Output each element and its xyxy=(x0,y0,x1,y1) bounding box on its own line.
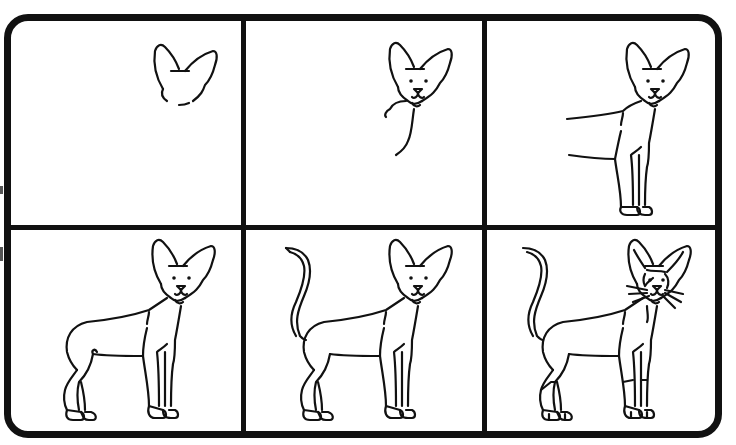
panel-step-2: Step 2 xyxy=(246,21,482,225)
panel-step-3: Step 3 xyxy=(487,21,715,225)
cat-full-body-icon xyxy=(11,230,241,431)
drawing-grid-frame: Step 1 Step 2 Step 3 xyxy=(4,14,722,438)
panel-step-6: Step 6 xyxy=(487,230,715,431)
panel-step-4: Step 4 xyxy=(11,230,241,431)
cat-detailed-icon xyxy=(487,230,715,431)
panel-step-5: Step 5 xyxy=(246,230,482,431)
cat-front-body-icon xyxy=(487,21,715,225)
scan-mark xyxy=(0,247,3,261)
cat-head-outline-icon xyxy=(11,21,241,225)
cat-head-face-icon xyxy=(246,21,482,225)
scan-mark xyxy=(0,186,3,194)
cat-with-tail-icon xyxy=(246,230,482,431)
panel-step-1: Step 1 xyxy=(11,21,241,225)
